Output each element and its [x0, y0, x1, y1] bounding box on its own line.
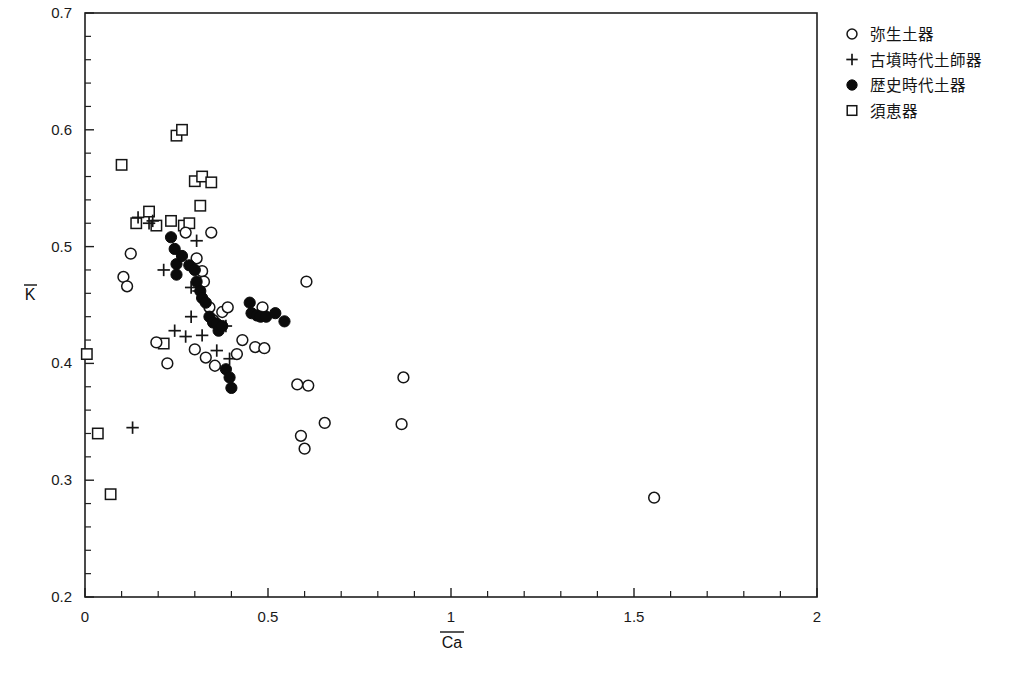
data-point	[151, 337, 162, 348]
x-tick-label: 0.5	[258, 608, 279, 625]
y-tick-label: 0.2	[51, 588, 72, 605]
legend-item: 弥生土器	[847, 26, 934, 44]
legend-marker-open-circle	[847, 29, 857, 39]
y-axis-title: K	[25, 286, 36, 303]
data-point	[177, 125, 187, 135]
y-tick-label: 0.5	[51, 238, 72, 255]
data-point	[303, 380, 314, 391]
data-point	[196, 329, 208, 341]
axis-labels-layer: 00.511.520.20.30.40.50.60.7CaK	[24, 4, 821, 651]
x-tick-label: 0	[81, 608, 89, 625]
data-point	[244, 297, 255, 308]
data-point	[224, 372, 235, 383]
data-point	[165, 232, 176, 243]
data-point	[231, 349, 242, 360]
data-point	[206, 227, 217, 238]
data-point	[176, 250, 187, 261]
legend: 弥生土器古墳時代土師器歴史時代土器須恵器	[846, 26, 982, 121]
data-point	[185, 310, 197, 322]
data-point	[259, 343, 270, 354]
data-point	[168, 324, 180, 336]
data-point	[195, 201, 205, 211]
data-point	[301, 276, 312, 287]
data-point	[190, 235, 202, 247]
data-point	[171, 269, 182, 280]
data-point	[180, 227, 191, 238]
data-point	[189, 344, 200, 355]
x-tick-label: 1	[447, 608, 455, 625]
data-point	[82, 349, 92, 359]
data-point	[189, 264, 200, 275]
y-tick-label: 0.4	[51, 354, 72, 371]
legend-item: 歴史時代土器	[847, 77, 966, 95]
data-point	[131, 218, 141, 228]
data-point	[210, 360, 221, 371]
axes-layer	[85, 13, 817, 597]
data-point	[217, 320, 228, 331]
data-point	[126, 421, 138, 433]
data-point	[237, 335, 248, 346]
series-group	[82, 125, 217, 500]
data-point	[222, 302, 233, 313]
data-point	[270, 308, 281, 319]
x-axis-title: Ca	[442, 634, 463, 651]
data-point	[292, 379, 303, 390]
data-point	[200, 297, 211, 308]
data-point	[200, 352, 211, 363]
data-point	[211, 344, 223, 356]
data-point	[93, 428, 103, 438]
data-point	[125, 248, 136, 259]
y-tick-label: 0.3	[51, 471, 72, 488]
data-point	[166, 216, 176, 226]
data-point	[226, 382, 237, 393]
data-point	[296, 430, 307, 441]
legend-label: 須恵器	[870, 103, 918, 121]
legend-marker-open-square	[847, 106, 857, 116]
legend-marker-filled-circle	[847, 80, 857, 90]
data-point	[179, 330, 191, 342]
legend-item: 須恵器	[847, 103, 918, 121]
data-point	[319, 418, 330, 429]
legend-item: 古墳時代土師器	[846, 52, 982, 70]
data-points-layer	[82, 125, 660, 504]
scatter-plot-figure: 00.511.520.20.30.40.50.60.7CaK 弥生土器古墳時代土…	[0, 0, 1010, 674]
data-point	[649, 492, 660, 503]
data-point	[396, 419, 407, 430]
data-point	[122, 281, 133, 292]
data-point	[299, 443, 310, 454]
data-point	[398, 372, 409, 383]
legend-label: 弥生土器	[870, 26, 934, 44]
plot-frame	[85, 13, 817, 597]
x-tick-label: 2	[813, 608, 821, 625]
x-tick-label: 1.5	[624, 608, 645, 625]
legend-label: 歴史時代土器	[870, 77, 966, 95]
legend-marker-plus	[846, 54, 857, 65]
chart-canvas: 00.511.520.20.30.40.50.60.7CaK 弥生土器古墳時代土…	[0, 0, 1010, 674]
data-point	[157, 264, 169, 276]
data-point	[105, 489, 115, 499]
y-tick-label: 0.6	[51, 121, 72, 138]
data-point	[162, 358, 173, 369]
data-point	[116, 160, 126, 170]
data-point	[206, 177, 216, 187]
legend-label: 古墳時代土師器	[870, 52, 982, 70]
y-tick-label: 0.7	[51, 4, 72, 21]
data-point	[279, 316, 290, 327]
